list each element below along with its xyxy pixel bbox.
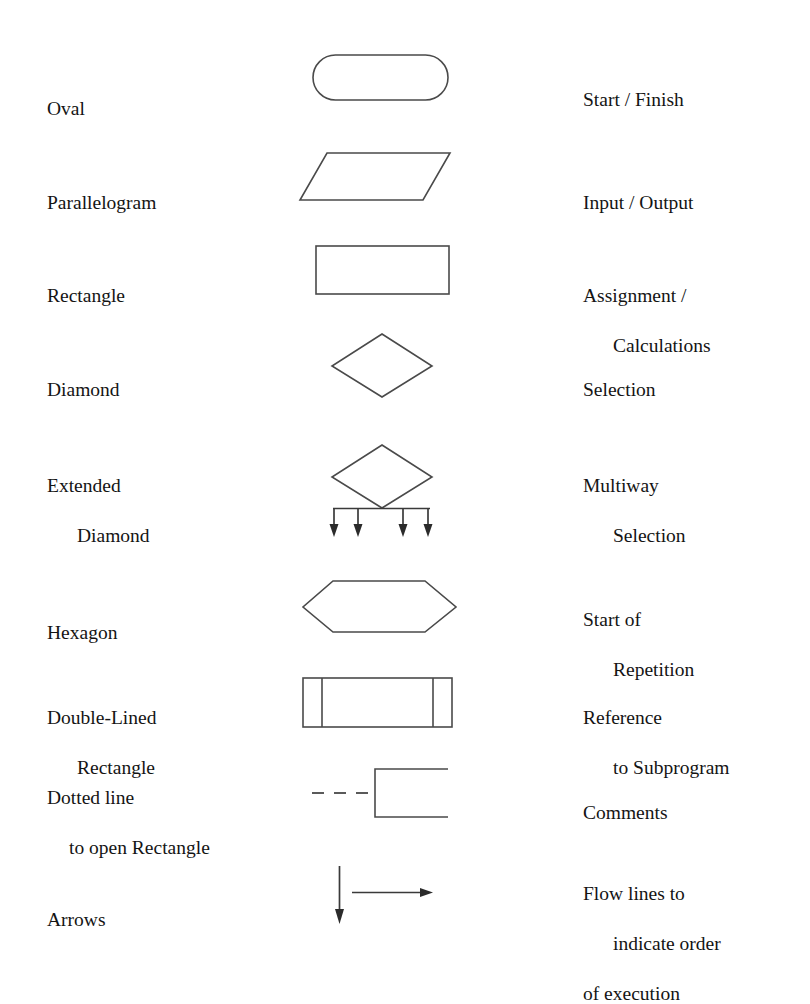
symbol-meaning-line: Reference — [583, 705, 808, 730]
symbol-name-dotted-open-rectangle: Dotted line to open Rectangle — [47, 760, 297, 885]
oval-shape-icon — [305, 48, 457, 108]
symbol-meaning-line: Flow lines to — [583, 881, 808, 906]
symbol-meaning-line: Multiway — [583, 473, 808, 498]
symbol-meaning-oval: Start / Finish — [583, 62, 808, 137]
symbol-meaning-diamond: Selection — [583, 352, 808, 427]
symbol-meaning-line: indicate order — [583, 931, 808, 956]
symbol-name-arrows: Arrows — [47, 882, 297, 957]
dashed-open-rectangle-shape-icon — [304, 762, 458, 824]
symbol-name-line: Extended — [47, 473, 297, 498]
symbol-name-line: Dotted line — [47, 785, 297, 810]
symbol-meaning-line: Start / Finish — [583, 87, 808, 112]
symbol-meaning-line: Selection — [583, 523, 808, 548]
symbol-name-parallelogram: Parallelogram — [47, 165, 297, 240]
symbol-meaning-line: Repetition — [583, 657, 808, 682]
symbol-name-line: Diamond — [47, 523, 297, 548]
symbol-name-line: Oval — [47, 96, 297, 121]
symbol-meaning-parallelogram: Input / Output — [583, 165, 808, 240]
symbol-name-line: to open Rectangle — [47, 835, 297, 860]
symbol-meaning-dotted-open-rectangle: Comments — [583, 775, 808, 850]
parallelogram-shape-icon — [292, 146, 464, 208]
diamond-shape-icon — [324, 327, 440, 405]
symbol-meaning-line: Start of — [583, 607, 808, 632]
symbol-meaning-line: Selection — [583, 377, 808, 402]
symbol-name-diamond: Diamond — [47, 352, 297, 427]
arrows-shape-icon — [326, 858, 442, 934]
symbol-meaning-line: Comments — [583, 800, 808, 825]
symbol-meaning-line: of execution — [583, 981, 808, 1004]
extended-diamond-shape-icon — [324, 438, 448, 543]
symbol-name-oval: Oval — [47, 71, 297, 146]
symbol-meaning-extended-diamond: Multiway Selection — [583, 448, 808, 573]
symbol-name-line: Arrows — [47, 907, 297, 932]
symbol-name-rectangle: Rectangle — [47, 258, 297, 333]
double-lined-rectangle-shape-icon — [295, 671, 463, 733]
symbol-meaning-line: Assignment / — [583, 283, 808, 308]
symbol-name-line: Diamond — [47, 377, 297, 402]
symbol-name-line: Double-Lined — [47, 705, 297, 730]
symbol-name-line: Hexagon — [47, 620, 297, 645]
rectangle-shape-icon — [308, 240, 458, 300]
symbol-name-line: Parallelogram — [47, 190, 297, 215]
symbol-name-line: Rectangle — [47, 283, 297, 308]
hexagon-shape-icon — [295, 574, 467, 640]
symbol-meaning-arrows: Flow lines to indicate order of executio… — [583, 856, 808, 1004]
symbol-name-extended-diamond: Extended Diamond — [47, 448, 297, 573]
symbol-meaning-line: Input / Output — [583, 190, 808, 215]
symbol-name-hexagon: Hexagon — [47, 595, 297, 670]
